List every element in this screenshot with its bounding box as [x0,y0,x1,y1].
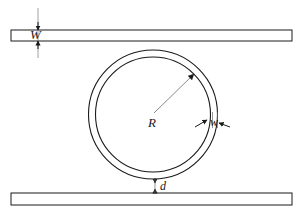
label-gap: d [160,180,166,192]
radius-dimension [154,75,194,114]
label-ring-radius: R [148,116,156,129]
microring-resonator-schematic [0,0,301,212]
label-bus-width: W [30,28,40,41]
diagram-canvas: W R w d [0,0,301,212]
bottom-bus-waveguide [11,193,292,205]
label-ring-width: w [210,116,218,128]
top-bus-waveguide [11,30,292,41]
